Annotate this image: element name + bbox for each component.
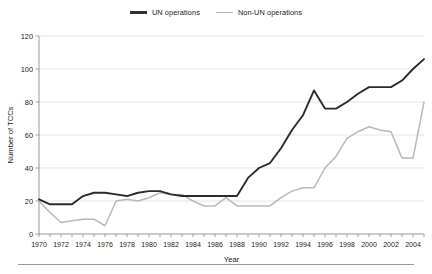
- footer-divider: [18, 264, 414, 265]
- y-axis-ticks: 020406080100120: [21, 32, 39, 239]
- x-tick-label: 1976: [97, 241, 113, 248]
- y-tick-label: 0: [29, 230, 33, 239]
- x-tick-label: 1978: [119, 241, 135, 248]
- x-tick-label: 1998: [339, 241, 355, 248]
- x-tick-label: 1972: [53, 241, 69, 248]
- grid-lines: [39, 36, 424, 201]
- x-tick-label: 2000: [361, 241, 377, 248]
- x-tick-label: 1980: [141, 241, 157, 248]
- x-tick-label: 1992: [273, 241, 289, 248]
- y-axis-title: Number of TCCs: [6, 106, 15, 163]
- x-tick-label: 1986: [207, 241, 223, 248]
- series-line-non-un-operations: [39, 102, 424, 226]
- y-tick-label: 40: [25, 164, 33, 173]
- chart-figure: UN operations Non-UN operations 02040608…: [0, 0, 432, 274]
- x-tick-label: 1988: [229, 241, 245, 248]
- series-line-un-operations: [39, 59, 424, 204]
- x-tick-label: 1990: [251, 241, 267, 248]
- x-tick-label: 1974: [75, 241, 91, 248]
- chart-svg: 020406080100120 197019721974197619781980…: [0, 0, 432, 274]
- x-tick-label: 1994: [295, 241, 311, 248]
- x-tick-label: 1996: [317, 241, 333, 248]
- y-tick-label: 60: [25, 131, 33, 140]
- plot-area: 020406080100120 197019721974197619781980…: [0, 0, 432, 274]
- y-tick-label: 100: [21, 65, 33, 74]
- y-tick-label: 80: [25, 98, 33, 107]
- x-tick-label: 1982: [163, 241, 179, 248]
- x-tick-label: 1970: [31, 241, 47, 248]
- x-tick-label: 1984: [185, 241, 201, 248]
- x-axis-title: Year: [224, 255, 240, 264]
- y-tick-label: 120: [21, 32, 33, 41]
- x-tick-label: 2002: [383, 241, 399, 248]
- x-tick-label: 2004: [405, 241, 421, 248]
- y-tick-label: 20: [25, 197, 33, 206]
- x-axis-ticks: 1970197219741976197819801982198419861988…: [31, 234, 424, 248]
